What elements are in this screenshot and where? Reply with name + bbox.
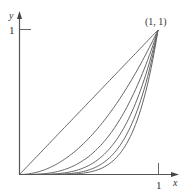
x-tick-label: 1 [156, 179, 162, 191]
curves-diagram: y 1 x 1 (1, 1) [0, 0, 190, 194]
y-tick-label: 1 [9, 24, 15, 36]
diagonal [20, 30, 159, 175]
y-axis-label: y [8, 10, 14, 21]
point-label: (1, 1) [145, 16, 167, 28]
diagram-canvas: y 1 x 1 (1, 1) [0, 0, 190, 194]
y-axis-arrow-icon [17, 11, 22, 19]
curves [20, 30, 159, 175]
x-axis-label: x [172, 177, 178, 188]
